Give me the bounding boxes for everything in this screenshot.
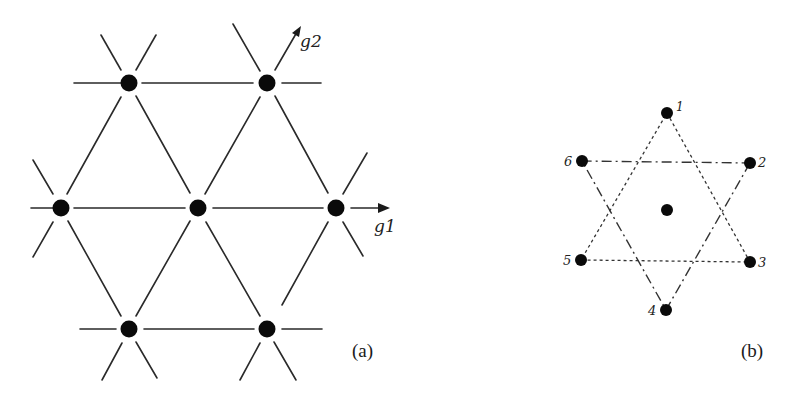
star-center-point <box>661 204 673 216</box>
panel-b-hexagram: 1 2 3 4 5 6 (b) <box>563 100 766 362</box>
g1-vector-arrow: g1 <box>351 203 396 236</box>
panel-b-label: (b) <box>741 340 763 362</box>
star-point-2 <box>744 157 756 169</box>
triangle-2-4-6-dashdot <box>582 161 750 310</box>
star-point-4 <box>660 304 672 316</box>
g2-label: g2 <box>300 31 322 51</box>
lattice-point <box>121 321 138 338</box>
lattice-point <box>259 321 276 338</box>
point-label-3: 3 <box>758 255 766 270</box>
point-label-6: 6 <box>564 154 572 169</box>
point-label-1: 1 <box>676 100 684 114</box>
star-point-5 <box>575 254 587 266</box>
lattice-point <box>53 200 70 217</box>
point-label-4: 4 <box>647 303 656 318</box>
lattice-horizontal-lines <box>31 83 323 329</box>
lattice-point <box>259 75 276 92</box>
star-point-6 <box>576 155 588 167</box>
star-point-1 <box>661 107 673 119</box>
triangle-1-3-5-dotted <box>581 113 750 262</box>
panel-a-lattice: g2 g1 (a) <box>31 24 396 380</box>
g1-label: g1 <box>374 216 396 236</box>
figure-canvas: g2 g1 (a) <box>0 0 795 394</box>
point-label-2: 2 <box>757 155 766 170</box>
lattice-point <box>121 75 138 92</box>
g2-vector-arrow: g2 <box>275 26 322 70</box>
lattice-points <box>53 75 345 338</box>
lattice-point <box>328 200 345 217</box>
panel-a-label: (a) <box>352 340 373 362</box>
star-point-3 <box>744 256 756 268</box>
lattice-point-origin <box>190 200 207 217</box>
point-label-5: 5 <box>563 253 571 268</box>
